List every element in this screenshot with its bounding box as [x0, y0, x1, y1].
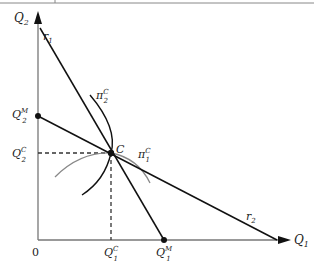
y-axis-label: Q2 — [14, 11, 29, 27]
q2c-label: QC2 — [12, 146, 27, 164]
cournot-diagram: Q2 Q1 0 r1 r2 πC2 πC1 C QM2 QC2 QC1 QM1 — [0, 0, 314, 270]
q1m-label: QM1 — [156, 245, 173, 263]
point-q1m — [161, 237, 167, 243]
origin-label: 0 — [32, 246, 39, 259]
r2-label: r2 — [246, 210, 256, 225]
r2-reaction-line — [38, 116, 277, 240]
point-q2m — [35, 113, 41, 119]
x-axis-label: Q1 — [294, 233, 309, 249]
q1c-label: QC1 — [104, 245, 119, 263]
point-c-label: C — [116, 143, 125, 156]
y-axis-arrow-icon — [34, 11, 42, 24]
r1-label: r1 — [43, 30, 53, 45]
x-axis-arrow-icon — [278, 236, 291, 244]
pi1-isoprofit-curve — [55, 153, 150, 183]
pi2-label: πC2 — [95, 88, 109, 105]
q2m-label: QM2 — [12, 107, 29, 125]
r1-reaction-line — [40, 28, 164, 240]
pi1-label: πC1 — [137, 147, 151, 164]
point-c — [108, 150, 114, 156]
